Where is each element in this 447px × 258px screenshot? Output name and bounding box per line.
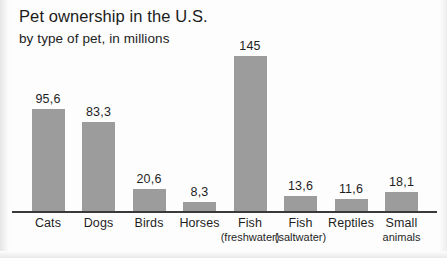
category-label-line2: animals <box>362 231 442 245</box>
x-axis-line <box>12 211 437 213</box>
bar-value-label: 95,6 <box>18 92 78 106</box>
bar <box>133 189 166 211</box>
bar <box>183 202 216 211</box>
bar-value-label: 8,3 <box>170 185 230 199</box>
plot-area: 95,6Cats83,3Dogs20,6Birds8,3Horses145Fis… <box>0 0 447 258</box>
bar-value-label: 18,1 <box>372 175 432 189</box>
bar-value-label: 83,3 <box>69 105 129 119</box>
bar-value-label: 20,6 <box>119 172 179 186</box>
bar <box>284 196 317 211</box>
bar <box>82 122 115 211</box>
bar <box>32 109 65 211</box>
bar <box>234 56 267 211</box>
category-label: Smallanimals <box>362 217 442 244</box>
bar <box>335 199 368 211</box>
category-label-line2: (saltwater) <box>261 231 341 245</box>
chart-container: Pet ownership in the U.S. by type of pet… <box>0 0 447 258</box>
bar-value-label: 145 <box>220 39 280 53</box>
bar <box>385 192 418 211</box>
